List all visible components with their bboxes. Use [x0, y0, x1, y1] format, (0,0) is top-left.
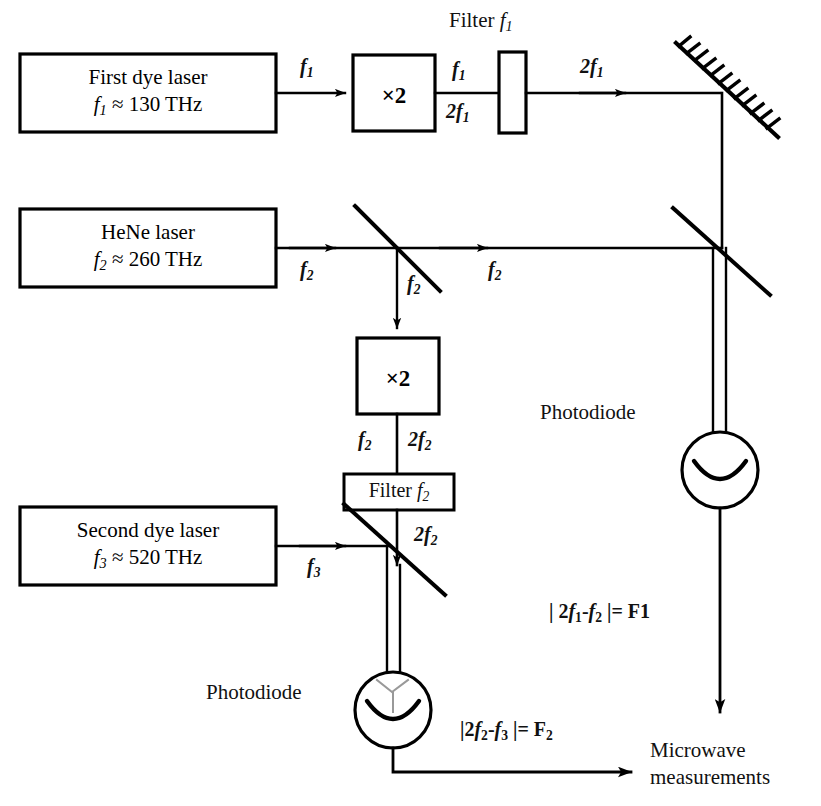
photodiode-lower-label: Photodiode: [206, 680, 302, 705]
rhs-sub: 3: [501, 728, 508, 743]
beam-label-f1-out: f1: [452, 58, 465, 84]
sym: f: [456, 100, 463, 122]
equals: =: [611, 600, 622, 622]
sym: f: [424, 523, 431, 545]
photodiode-upper-text: Photodiode: [540, 400, 636, 424]
beam-label-2f2-filtered: 2f2: [414, 523, 437, 549]
lhs-coef: 2: [464, 718, 474, 740]
mirror-top-right-symbol: [676, 37, 779, 137]
second-dye-laser-name: Second dye laser: [20, 517, 276, 544]
doubler-middle-text: ×2: [386, 366, 411, 391]
hene-laser-name: HeNe laser: [20, 219, 276, 246]
sub: 3: [314, 565, 321, 580]
sub: 1: [597, 65, 604, 80]
filter-f1-box: [499, 52, 526, 133]
beam-label-2f1-out: 2f1: [446, 100, 469, 126]
beam-label-f3-source: f3: [307, 555, 320, 581]
pre: 2: [408, 428, 418, 450]
filter-f1-subscript: 1: [506, 18, 513, 34]
lhs-sub: 2: [481, 728, 488, 743]
first-dye-laser-name: First dye laser: [20, 64, 276, 91]
first-dye-laser-label: First dye laser f1 ≈ 130 THz: [20, 64, 276, 120]
photodiode-lower-text: Photodiode: [206, 680, 302, 704]
microwave-line2: measurements: [650, 764, 770, 791]
sym: f: [407, 272, 414, 294]
freq-value: ≈ 260 THz: [107, 247, 203, 271]
bar-open: |: [549, 600, 553, 622]
beat-result-f2-sub: 2: [546, 728, 553, 743]
sym: f: [300, 258, 307, 280]
sub: 1: [459, 68, 466, 83]
second-dye-laser-frequency: f3 ≈ 520 THz: [20, 544, 276, 573]
second-dye-laser-label: Second dye laser f3 ≈ 520 THz: [20, 517, 276, 573]
first-dye-laser-frequency: f1 ≈ 130 THz: [20, 91, 276, 120]
beam-label-f2-source: f2: [300, 258, 313, 284]
hene-laser-label: HeNe laser f2 ≈ 260 THz: [20, 219, 276, 275]
sym: f: [307, 555, 314, 577]
beam-label-2f1-mirror: 2f1: [580, 55, 603, 81]
filter-f2-word: Filter: [369, 479, 412, 501]
filter-f2-label: Filter f2: [344, 479, 454, 505]
sub: 2: [365, 438, 372, 453]
microwave-measurements-label: Microwave measurements: [650, 737, 770, 792]
freq-subscript: 2: [99, 257, 106, 273]
sym: f: [590, 55, 597, 77]
sym: f: [358, 428, 365, 450]
freq-value: ≈ 130 THz: [107, 92, 203, 116]
sub: 2: [425, 438, 432, 453]
doubler-top-text: ×2: [382, 83, 407, 108]
sub: 2: [495, 268, 502, 283]
photodiode-upper-label: Photodiode: [540, 400, 636, 425]
beam-label-f2-down: f2: [407, 272, 420, 298]
sub: 1: [463, 110, 470, 125]
equals: =: [517, 718, 528, 740]
beat-note-f2-label: |2f2-f3 |= F2: [460, 718, 553, 744]
minus: -: [582, 600, 589, 622]
beat-result-f2-sym: F: [534, 718, 546, 740]
minus: -: [488, 718, 495, 740]
beam-label-f2-filter-left: f2: [358, 428, 371, 454]
lhs-coef: 2: [558, 600, 568, 622]
beam-label-f1-in: f1: [300, 55, 313, 81]
sym: f: [452, 58, 459, 80]
doubler-middle-label: ×2: [357, 364, 439, 394]
photodiode-upper-symbol: [682, 432, 758, 508]
photodiode-lower-symbol: [355, 672, 431, 748]
signal-line-F2: [393, 748, 631, 772]
beam-label-2f2-doubler: 2f2: [408, 428, 431, 454]
sub: 1: [307, 65, 314, 80]
pre: 2: [446, 100, 456, 122]
doubler-top-label: ×2: [353, 81, 435, 111]
diagram-canvas: [0, 0, 821, 806]
filter-f2-subscript: 2: [423, 489, 430, 504]
optical-frequency-chain-diagram: First dye laser f1 ≈ 130 THz HeNe laser …: [0, 0, 821, 806]
beamsplitter-lower-symbol: [344, 504, 445, 595]
pre: 2: [580, 55, 590, 77]
beam-label-f2-right: f2: [488, 258, 501, 284]
filter-f1-word: Filter: [449, 8, 495, 32]
beat-note-f1-label: | 2f1-f2 |= F1: [549, 600, 650, 626]
freq-subscript: 1: [99, 102, 106, 118]
filter-f1-label: Filter f1: [449, 8, 513, 35]
sym: f: [418, 428, 425, 450]
sym: f: [488, 258, 495, 280]
sym: f: [300, 55, 307, 77]
beat-result-f1: F1: [628, 600, 650, 622]
rhs-sub: 2: [595, 610, 602, 625]
hene-laser-frequency: f2 ≈ 260 THz: [20, 246, 276, 275]
sub: 2: [431, 533, 438, 548]
microwave-line1: Microwave: [650, 737, 770, 764]
sub: 2: [307, 268, 314, 283]
pre: 2: [414, 523, 424, 545]
freq-value: ≈ 520 THz: [107, 545, 203, 569]
freq-subscript: 3: [99, 555, 106, 571]
lhs-sub: 1: [575, 610, 582, 625]
sub: 2: [414, 282, 421, 297]
